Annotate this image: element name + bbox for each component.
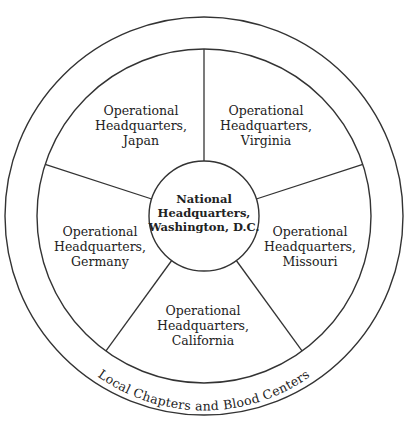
spoke-bottom-right xyxy=(236,261,302,352)
segment-label-california: Operational Headquarters, California xyxy=(157,303,249,348)
svg-text:Germany: Germany xyxy=(71,254,130,269)
segment-label-missouri: Operational Headquarters, Missouri xyxy=(264,224,356,269)
svg-text:Operational: Operational xyxy=(272,224,347,239)
svg-text:National: National xyxy=(176,192,232,206)
segment-label-germany: Operational Headquarters, Germany xyxy=(54,224,146,269)
segment-label-japan: Operational Headquarters, Japan xyxy=(95,103,187,148)
svg-text:Operational: Operational xyxy=(103,103,178,118)
svg-text:Headquarters,: Headquarters, xyxy=(264,239,356,254)
segment-label-virginia: Operational Headquarters, Virginia xyxy=(220,103,312,148)
svg-text:Japan: Japan xyxy=(121,133,159,148)
svg-text:Operational: Operational xyxy=(165,303,240,318)
center-label-national-hq: National Headquarters, Washington, D.C. xyxy=(148,192,260,234)
svg-text:Headquarters,: Headquarters, xyxy=(95,118,187,133)
svg-text:California: California xyxy=(172,333,235,348)
svg-text:Operational: Operational xyxy=(228,103,303,118)
svg-text:Washington, D.C.: Washington, D.C. xyxy=(148,220,260,234)
organization-wheel-diagram: National Headquarters, Washington, D.C. … xyxy=(0,0,408,432)
svg-text:Virginia: Virginia xyxy=(240,133,292,148)
spoke-bottom-left xyxy=(106,261,172,352)
svg-text:Headquarters,: Headquarters, xyxy=(157,318,249,333)
svg-text:Headquarters,: Headquarters, xyxy=(220,118,312,133)
spoke-right xyxy=(256,164,363,199)
svg-text:Operational: Operational xyxy=(62,224,137,239)
svg-text:Headquarters,: Headquarters, xyxy=(54,239,146,254)
svg-text:Headquarters,: Headquarters, xyxy=(158,206,251,220)
outer-ring-label: Local Chapters and Blood Centers xyxy=(96,366,313,413)
svg-text:Missouri: Missouri xyxy=(282,254,337,269)
spoke-left xyxy=(45,164,152,199)
